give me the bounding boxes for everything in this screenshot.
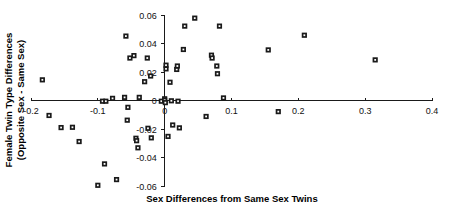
data-point xyxy=(145,126,150,131)
marker-center xyxy=(41,79,43,81)
marker-center xyxy=(146,57,148,59)
data-point xyxy=(102,161,107,166)
marker-center xyxy=(176,65,178,67)
y-axis-title-line2: (Opposite Sex - Same Sex) xyxy=(15,40,26,160)
y-tick-label: 0 xyxy=(152,96,157,106)
marker-center xyxy=(60,127,62,129)
y-axis-title-line1: Female Twin Type Differences xyxy=(3,33,14,168)
data-point xyxy=(204,114,209,119)
marker-center xyxy=(72,126,74,128)
data-point xyxy=(163,63,168,68)
marker-center xyxy=(303,34,305,36)
chart-svg: -0.2-0.100.10.20.30.4 0.060.040.020-0.02… xyxy=(0,0,453,208)
data-point xyxy=(215,71,220,76)
marker-center xyxy=(205,116,207,118)
marker-center xyxy=(105,100,107,102)
data-point xyxy=(302,33,307,38)
data-point xyxy=(182,24,187,29)
marker-center xyxy=(182,49,184,51)
y-tick-label: 0.02 xyxy=(139,68,157,78)
data-point xyxy=(181,47,186,52)
marker-center xyxy=(374,59,376,61)
data-point xyxy=(77,139,82,144)
data-point xyxy=(58,125,63,130)
marker-center xyxy=(124,96,126,98)
x-axis-title: Sex Differences from Same Sex Twins xyxy=(146,193,317,204)
data-point xyxy=(134,138,139,143)
data-point xyxy=(149,135,154,140)
y-tick-label: 0.06 xyxy=(139,11,157,21)
x-tick-label: 0.4 xyxy=(426,106,439,116)
marker-center xyxy=(133,55,135,57)
marker-center xyxy=(164,102,166,104)
marker-center xyxy=(223,97,225,99)
marker-center xyxy=(125,35,127,37)
marker-center xyxy=(184,25,186,27)
marker-center xyxy=(126,119,128,121)
data-point xyxy=(103,99,108,104)
data-point xyxy=(266,47,271,52)
data-point xyxy=(167,80,172,85)
data-point xyxy=(214,63,219,68)
marker-center xyxy=(217,73,219,75)
marker-center xyxy=(211,57,213,59)
marker-center xyxy=(170,100,172,102)
data-point xyxy=(135,145,140,150)
marker-center xyxy=(97,184,99,186)
data-point xyxy=(175,99,180,104)
marker-center xyxy=(136,140,138,142)
marker-center xyxy=(138,96,140,98)
marker-center xyxy=(78,141,80,143)
data-point xyxy=(276,109,281,114)
marker-center xyxy=(169,81,171,83)
data-point xyxy=(210,55,215,60)
data-point xyxy=(46,113,51,118)
data-point xyxy=(217,24,222,29)
marker-center xyxy=(219,25,221,27)
data-point xyxy=(169,98,174,103)
chart-background xyxy=(0,0,453,208)
marker-center xyxy=(144,81,146,83)
marker-center xyxy=(102,100,104,102)
data-point xyxy=(123,33,128,38)
marker-center xyxy=(137,147,139,149)
y-tick-label: -0.04 xyxy=(136,153,157,163)
data-point xyxy=(175,63,180,68)
x-tick-label: 0.3 xyxy=(359,106,372,116)
marker-center xyxy=(167,136,169,138)
data-point xyxy=(95,183,100,188)
data-point xyxy=(221,95,226,100)
marker-center xyxy=(277,111,279,113)
data-point xyxy=(170,122,175,127)
data-point xyxy=(148,73,153,78)
marker-center xyxy=(150,75,152,77)
marker-center xyxy=(129,57,131,59)
marker-center xyxy=(116,179,118,181)
data-point xyxy=(373,57,378,62)
marker-center xyxy=(267,49,269,51)
marker-center xyxy=(104,163,106,165)
data-point xyxy=(114,177,119,182)
scatter-chart: -0.2-0.100.10.20.30.4 0.060.040.020-0.02… xyxy=(0,0,453,208)
marker-center xyxy=(194,17,196,19)
marker-center xyxy=(112,97,114,99)
x-tick-label: 0.2 xyxy=(292,106,305,116)
marker-center xyxy=(172,124,174,126)
marker-center xyxy=(177,100,179,102)
data-point xyxy=(192,16,197,21)
marker-center xyxy=(150,137,152,139)
data-point xyxy=(142,79,147,84)
marker-center xyxy=(165,64,167,66)
data-point xyxy=(125,105,130,110)
data-point xyxy=(40,77,45,82)
data-point xyxy=(131,53,136,58)
x-tick-label: 0.1 xyxy=(225,106,238,116)
marker-center xyxy=(176,69,178,71)
marker-center xyxy=(147,127,149,129)
marker-center xyxy=(216,65,218,67)
y-tick-label: -0.06 xyxy=(136,182,157,192)
marker-center xyxy=(48,115,50,117)
data-point xyxy=(177,125,182,130)
x-tick-label: -0.1 xyxy=(90,106,106,116)
data-point xyxy=(70,125,75,130)
